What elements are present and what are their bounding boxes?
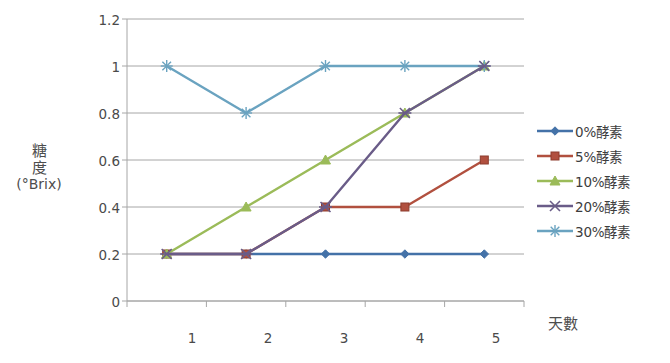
legend-glyph-diamond bbox=[551, 126, 559, 134]
data-point-30%酵素-x2 bbox=[240, 107, 252, 119]
data-point-30%酵素-x3 bbox=[320, 60, 332, 72]
legend-marker-asterisk-icon bbox=[536, 223, 574, 239]
legend-label-0%酵素: 0%酵素 bbox=[574, 121, 622, 141]
legend-glyph-cross bbox=[549, 201, 562, 211]
legend-marker-triangle-icon bbox=[536, 173, 574, 189]
legend-label-10%酵素: 10%酵素 bbox=[574, 171, 630, 191]
data-point-0%酵素-x4 bbox=[401, 250, 409, 258]
series-line-30%酵素 bbox=[167, 66, 485, 113]
legend-marker-diamond-icon bbox=[536, 123, 574, 139]
legend-item-0%酵素[interactable]: 0%酵素 bbox=[536, 118, 668, 143]
data-point-5%酵素-x4 bbox=[401, 203, 409, 211]
legend-marker-cross-icon bbox=[536, 198, 574, 214]
legend-item-5%酵素[interactable]: 5%酵素 bbox=[536, 143, 668, 168]
line-chart: 糖 度 (°Brix) 0 0.2 0.4 0.6 0.8 1 1.2 1 2 … bbox=[0, 0, 670, 363]
legend-item-30%酵素[interactable]: 30%酵素 bbox=[536, 218, 668, 243]
legend-glyph-square bbox=[551, 152, 559, 160]
data-point-0%酵素-x5 bbox=[480, 250, 488, 258]
series-30%酵素 bbox=[161, 60, 491, 119]
legend-marker-square-icon bbox=[536, 148, 574, 164]
legend-item-20%酵素[interactable]: 20%酵素 bbox=[536, 193, 668, 218]
legend-label-5%酵素: 5%酵素 bbox=[574, 146, 622, 166]
legend-label-20%酵素: 20%酵素 bbox=[574, 196, 630, 216]
legend-glyph-asterisk bbox=[549, 225, 561, 237]
data-point-5%酵素-x5 bbox=[480, 156, 488, 164]
data-point-30%酵素-x1 bbox=[161, 60, 173, 72]
legend-item-10%酵素[interactable]: 10%酵素 bbox=[536, 168, 668, 193]
data-point-0%酵素-x3 bbox=[321, 250, 329, 258]
data-point-30%酵素-x4 bbox=[399, 60, 411, 72]
legend: 0%酵素5%酵素10%酵素20%酵素30%酵素 bbox=[536, 118, 668, 243]
legend-label-30%酵素: 30%酵素 bbox=[574, 221, 630, 241]
